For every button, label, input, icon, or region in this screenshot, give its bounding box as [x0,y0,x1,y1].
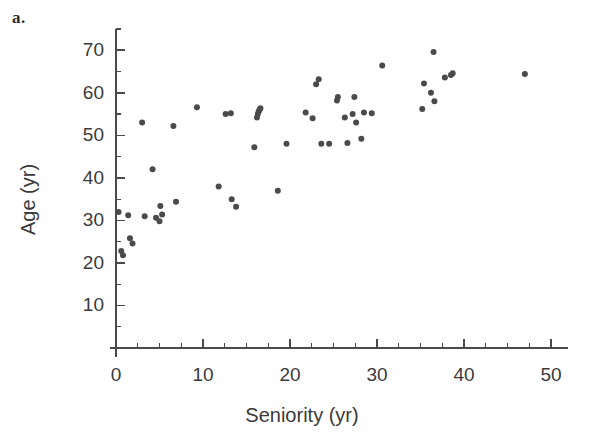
scatter-plot-figure: a. 10203040506070 01020304050 Age (yr) S… [0,0,604,441]
data-point [431,98,437,104]
data-point [159,211,165,217]
y-tick-label: 30 [58,209,104,231]
data-point [353,120,359,126]
data-point [257,105,263,111]
data-point [379,63,385,69]
data-points [116,49,528,258]
data-point [522,71,528,77]
data-point [361,109,367,115]
data-point [442,75,448,81]
y-tick-label: 70 [58,39,104,61]
data-point [326,141,332,147]
data-point [157,203,163,209]
data-point [233,204,239,210]
x-tick-label: 10 [181,364,225,386]
x-tick-label: 0 [94,364,138,386]
data-point [150,166,156,172]
data-point [216,183,222,189]
data-point [142,213,148,219]
y-tick-label: 40 [58,167,104,189]
data-point [335,94,341,100]
data-point [318,141,324,147]
data-point [450,70,456,76]
data-point [120,252,126,258]
data-point [130,240,136,246]
x-tick-label: 50 [529,364,573,386]
data-point [350,111,356,117]
data-point [284,141,290,147]
data-point [431,49,437,55]
y-tick-label: 50 [58,124,104,146]
data-point [342,114,348,120]
data-point [194,104,200,110]
data-point [116,209,122,215]
data-point [229,196,235,202]
data-point [313,81,319,87]
y-tick-label: 60 [58,82,104,104]
x-axis-label: Seniority (yr) [0,404,604,427]
data-point [139,120,145,126]
data-point [127,235,133,241]
axes [110,29,568,357]
data-point [223,111,229,117]
data-point [275,188,281,194]
data-point [421,80,427,86]
data-point [251,144,257,150]
y-tick-label: 10 [58,294,104,316]
x-tick-label: 20 [268,364,312,386]
data-point [351,94,357,100]
data-point [173,199,179,205]
data-point [125,212,131,218]
data-point [419,106,425,112]
x-tick-label: 40 [442,364,486,386]
data-point [157,218,163,224]
data-point [369,110,375,116]
data-point [303,109,309,115]
data-point [310,115,316,121]
data-point [344,140,350,146]
data-point [358,136,364,142]
data-point [428,90,434,96]
y-axis-label: Age (yr) [17,120,40,280]
x-tick-label: 30 [355,364,399,386]
data-point [228,110,234,116]
data-point [316,76,322,82]
plot-area: 10203040506070 01020304050 Age (yr) Seni… [0,0,604,441]
data-point [170,123,176,129]
y-tick-label: 20 [58,252,104,274]
